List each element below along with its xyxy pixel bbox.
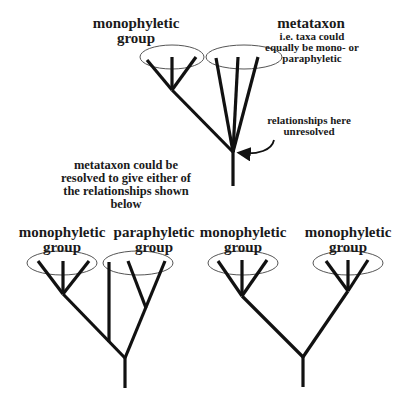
bottom-right-tree bbox=[208, 251, 383, 387]
bl-paraphyletic-label: paraphyletic group bbox=[104, 225, 204, 255]
metataxon-note: i.e. taxa could equally be mono- or para… bbox=[262, 31, 362, 64]
unresolved-arrow bbox=[240, 140, 274, 153]
bl-monophyletic-label: monophyletic group bbox=[12, 225, 112, 255]
br-right-monophyletic-label: monophyletic group bbox=[298, 225, 398, 255]
resolution-note: metataxon could be resolved to give eith… bbox=[40, 159, 212, 211]
bottom-left-tree bbox=[27, 251, 173, 388]
br-left-monophyletic-label: monophyletic group bbox=[193, 225, 293, 255]
metataxon-title: metataxon bbox=[258, 16, 364, 31]
unresolved-note: relationships here unresolved bbox=[254, 115, 364, 137]
top-monophyletic-label: monophyletic group bbox=[82, 16, 190, 46]
